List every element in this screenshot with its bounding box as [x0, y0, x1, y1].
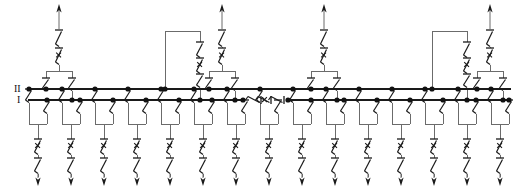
- outgoing-feeder-2-bus1-selector-blade: [77, 102, 83, 112]
- outgoing-feeder-9-disconnector-hinge: [299, 171, 303, 174]
- outgoing-feeder-12-bus1-selector-hinge: [407, 111, 411, 114]
- outgoing-feeder-7-load-arrow: [233, 178, 238, 187]
- outgoing-feeder-15-disconnector-hinge: [497, 171, 501, 174]
- outgoing-feeder-12-disconnector-blade: [398, 160, 404, 172]
- bus-coupler-2-disconnector-upper-hinge: [464, 55, 468, 58]
- outgoing-feeder-6-disconnector-blade: [200, 160, 206, 172]
- outgoing-feeder-10-bus2-selector-blade: [323, 91, 329, 101]
- outgoing-feeder-15-bus2-selector-blade: [488, 91, 494, 101]
- incoming-feeder-4-disconnector-hinge: [487, 44, 491, 47]
- outgoing-feeder-13-load-arrow: [431, 178, 436, 187]
- outgoing-feeder-7-disconnector-hinge: [233, 171, 237, 174]
- outgoing-feeder-11-bus2-selector-blade: [356, 91, 362, 101]
- outgoing-feeder-7-bus1-selector-hinge: [242, 111, 246, 114]
- outgoing-feeder-5-circuit-breaker-hinge: [167, 152, 171, 155]
- incoming-feeder-3-bus2-node: [308, 86, 313, 91]
- outgoing-feeder-9-bus1-selector-blade: [308, 102, 314, 112]
- outgoing-feeder-15-bus1-node: [506, 97, 511, 102]
- outgoing-feeder-13-bus2-selector-blade: [422, 91, 428, 101]
- outgoing-feeder-4-disconnector-hinge: [134, 171, 138, 174]
- outgoing-feeder-2-load-arrow: [68, 178, 73, 187]
- incoming-feeder-1-circuit-breaker-hinge: [56, 62, 60, 65]
- outgoing-feeder-4-bus2-selector-blade: [125, 91, 131, 101]
- outgoing-feeder-11-bus1-selector-hinge: [374, 111, 378, 114]
- incoming-feeder-4-circuit-breaker-hinge: [487, 62, 491, 65]
- outgoing-feeder-9-bus2-selector-blade: [290, 91, 296, 101]
- incoming-feeder-3-disconnector-blade: [321, 32, 327, 45]
- outgoing-feeder-8-circuit-breaker-hinge: [266, 152, 270, 155]
- outgoing-feeder-10-load-arrow: [332, 178, 337, 187]
- outgoing-feeder-12-bus2-node: [389, 86, 394, 91]
- outgoing-feeder-13-disconnector-hinge: [431, 171, 435, 174]
- outgoing-feeder-4-bus1-selector-blade: [143, 102, 149, 112]
- outgoing-feeder-8-disconnector-blade: [266, 160, 272, 172]
- outgoing-feeder-5-bus2-selector-blade: [158, 91, 164, 101]
- outgoing-feeder-13-bus1-node: [440, 97, 445, 102]
- outgoing-feeder-10-bus1-node: [341, 97, 346, 102]
- outgoing-feeder-1-bus1-selector-blade: [44, 102, 50, 112]
- outgoing-feeder-13-bus1-selector-hinge: [440, 111, 444, 114]
- outgoing-feeder-12-bus1-node: [407, 97, 412, 102]
- outgoing-feeder-4-circuit-breaker-hinge: [134, 152, 138, 155]
- outgoing-feeder-10-bus2-node: [323, 86, 328, 91]
- outgoing-feeder-7-circuit-breaker-hinge: [233, 152, 237, 155]
- outgoing-feeder-2-bus2-node: [59, 86, 64, 91]
- outgoing-feeder-9-disconnector-blade: [299, 160, 305, 172]
- outgoing-feeder-10-disconnector-hinge: [332, 171, 336, 174]
- outgoing-feeder-1-bus2-selector-blade: [26, 91, 32, 101]
- outgoing-feeder-1-bus1-selector-hinge: [44, 111, 48, 114]
- outgoing-feeder-14-bus2-selector-blade: [455, 91, 461, 101]
- outgoing-feeder-15-disconnector-blade: [497, 160, 503, 172]
- outgoing-feeder-9-bus1-selector-hinge: [308, 111, 312, 114]
- outgoing-feeder-12-load-arrow: [398, 178, 403, 187]
- outgoing-feeder-4-bus1-node: [143, 97, 148, 102]
- outgoing-feeder-11-circuit-breaker-hinge: [365, 152, 369, 155]
- incoming-feeder-3-bus1-node: [334, 97, 339, 102]
- outgoing-feeder-6-circuit-breaker-hinge: [200, 152, 204, 155]
- incoming-feeder-4-bus1-node: [500, 97, 505, 102]
- bus-coupler-1-disconnector-lower-hinge: [197, 85, 201, 88]
- incoming-feeder-2-disconnector-hinge: [219, 44, 223, 47]
- outgoing-feeder-7-bus2-selector-blade: [224, 91, 230, 101]
- incoming-feeder-2-bus1-node: [232, 97, 237, 102]
- outgoing-feeder-3-bus2-node: [92, 86, 97, 91]
- bus-coupler-2-bus2-node: [429, 86, 434, 91]
- outgoing-feeder-7-bus1-selector-blade: [242, 102, 248, 112]
- incoming-feeder-1-disconnector-blade: [56, 32, 62, 45]
- outgoing-feeder-15-load-arrow: [497, 178, 502, 187]
- bus-coupler-2-disconnector-upper-blade: [464, 44, 470, 56]
- outgoing-feeder-13-circuit-breaker-hinge: [431, 152, 435, 155]
- outgoing-feeder-9-bus2-node: [290, 86, 295, 91]
- outgoing-feeder-2-bus2-selector-blade: [59, 91, 65, 101]
- outgoing-feeder-6-bus2-node: [191, 86, 196, 91]
- outgoing-feeder-5-bus1-node: [176, 97, 181, 102]
- incoming-feeder-3-circuit-breaker-hinge: [321, 62, 325, 65]
- incoming-feeder-1-bus1-disconnector-blade: [69, 80, 75, 89]
- outgoing-feeder-14-bus1-selector-hinge: [473, 111, 477, 114]
- outgoing-feeder-11-disconnector-blade: [365, 160, 371, 172]
- outgoing-feeder-7-bus2-node: [224, 86, 229, 91]
- outgoing-feeder-15-bus1-selector-blade: [506, 102, 512, 112]
- outgoing-feeder-7-disconnector-blade: [233, 160, 239, 172]
- outgoing-feeder-4-bus1-selector-hinge: [143, 111, 147, 114]
- outgoing-feeder-14-bus1-selector-blade: [473, 102, 479, 112]
- outgoing-feeder-10-bus1-selector-hinge: [341, 111, 345, 114]
- outgoing-feeder-5-disconnector-blade: [167, 160, 173, 172]
- outgoing-feeder-1-disconnector-blade: [35, 160, 41, 172]
- outgoing-feeder-12-circuit-breaker-hinge: [398, 152, 402, 155]
- outgoing-feeder-14-bus1-node: [473, 97, 478, 102]
- sectionalizer-right-node: [285, 97, 290, 102]
- incoming-feeder-2-disconnector-blade: [219, 32, 225, 45]
- outgoing-feeder-2-disconnector-blade: [68, 160, 74, 172]
- outgoing-feeder-3-circuit-breaker-hinge: [101, 152, 105, 155]
- bus-coupler-2-circuit-breaker-hinge: [464, 71, 468, 74]
- outgoing-feeder-1-load-arrow: [35, 178, 40, 187]
- bus-coupler-1-circuit-breaker-hinge: [197, 71, 201, 74]
- outgoing-feeder-12-bus1-selector-blade: [407, 102, 413, 112]
- outgoing-feeder-6-bus1-selector-hinge: [209, 111, 213, 114]
- substation-diagram: II I: [0, 0, 517, 194]
- outgoing-feeder-2-bus1-node: [77, 97, 82, 102]
- outgoing-feeder-9-bus1-node: [308, 97, 313, 102]
- incoming-feeder-1-bus1-node: [69, 97, 74, 102]
- outgoing-feeder-6-bus1-selector-blade: [209, 102, 215, 112]
